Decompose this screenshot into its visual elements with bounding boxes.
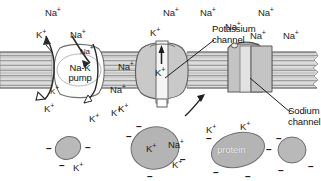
sodium-channel-label: Sodium channel <box>288 106 321 127</box>
extracellular-ion-label: Na+ <box>45 8 61 18</box>
ion-charge: + <box>175 6 179 13</box>
intracellular-ion-label: Na+ <box>168 140 184 150</box>
ion-text: Na <box>118 61 130 72</box>
intracellular-ion-label: K+ <box>111 108 121 118</box>
ion-text: Na <box>110 84 122 95</box>
negative-charge-sign: – <box>266 145 272 155</box>
ion-charge: + <box>50 102 54 109</box>
extracellular-ion-label: Na+ <box>163 8 179 18</box>
negative-charge-sign: – <box>276 134 282 144</box>
negative-charge-sign: – <box>308 162 314 172</box>
ion-charge: + <box>237 20 241 27</box>
k-ion-pump-bottom: K+ <box>50 88 59 96</box>
intracellular-ion-label: K+ <box>73 163 83 173</box>
intracellular-ion-label: K+ <box>44 104 54 114</box>
extracellular-ion-label: Na+ <box>118 62 134 72</box>
ion-text: Na <box>45 7 57 18</box>
k-ion-channel-top: K+ <box>150 28 160 38</box>
k-ion-channel-pore: K+ <box>155 68 165 78</box>
ion-charge: + <box>212 123 216 130</box>
intracellular-ion-label: K+ <box>240 122 250 132</box>
sodium-channel-shape <box>228 42 272 92</box>
ion-charge: + <box>124 102 128 109</box>
protein-blob <box>278 137 306 163</box>
negative-charge-sign: – <box>180 155 186 165</box>
ion-text: Na <box>163 7 175 18</box>
ion-text: Na <box>200 7 212 18</box>
ion-charge: + <box>117 106 121 113</box>
protein-blob-text: protein <box>217 144 245 155</box>
negative-charge-sign: – <box>206 134 212 144</box>
diagram-canvas: Na-K pump Potassium channel Sodium chann… <box>0 0 321 181</box>
sodium-channel-label-line1: Sodium <box>288 106 321 117</box>
sodium-influx-arrow <box>185 94 205 116</box>
ion-charge: + <box>122 83 126 90</box>
negative-charge-sign: – <box>147 172 153 181</box>
ion-text: Na <box>80 47 90 56</box>
ion-text: Na <box>70 29 82 40</box>
negative-charge-sign: – <box>213 168 219 178</box>
membrane-mid-right <box>187 52 228 88</box>
negative-charge-sign: – <box>278 166 284 176</box>
na-k-pump-label: Na-K pump <box>60 63 100 83</box>
na-k-pump-label-line2: pump <box>60 73 100 83</box>
ion-charge: + <box>152 142 156 149</box>
negative-charge-sign: – <box>85 143 91 153</box>
extracellular-ion-label: Na+ <box>225 22 241 32</box>
na-ion-pump-pore: Na+ <box>80 48 94 56</box>
ion-charge: + <box>42 28 46 35</box>
negative-charge-sign: – <box>46 144 52 154</box>
intracellular-ion-label: K+ <box>89 114 99 124</box>
protein-blob <box>52 133 85 164</box>
ion-charge: + <box>95 112 99 119</box>
extracellular-ion-label: Na+ <box>250 31 266 41</box>
ion-charge: + <box>180 138 184 145</box>
ion-charge: + <box>295 29 299 36</box>
negative-charge-sign: – <box>59 161 65 171</box>
ion-charge: + <box>79 161 83 168</box>
ion-charge: + <box>82 28 86 35</box>
membrane-left <box>0 52 52 88</box>
extracellular-ion-label: Na+ <box>258 8 274 18</box>
extracellular-ion-label: K+ <box>36 30 46 40</box>
ion-text: Na <box>250 30 262 41</box>
ion-text: Na <box>283 30 295 41</box>
potassium-channel-label-line2: channel <box>212 35 255 46</box>
ion-charge: + <box>212 6 216 13</box>
extracellular-ion-label: Na+ <box>200 8 216 18</box>
ion-charge: + <box>130 60 134 67</box>
sodium-channel-label-line2: channel <box>288 117 321 128</box>
intracellular-ion-label: K+ <box>146 144 156 154</box>
negative-charge-sign: – <box>245 172 251 181</box>
negative-charge-sign: – <box>126 132 132 142</box>
extracellular-ion-label: Na+ <box>283 31 299 41</box>
extracellular-ion-label: Na+ <box>70 30 86 40</box>
negative-charge-sign: – <box>136 122 142 132</box>
extracellular-ion-label: Na+ <box>110 85 126 95</box>
ion-text: Na <box>168 139 180 150</box>
ion-charge: + <box>270 6 274 13</box>
ion-charge: + <box>262 29 266 36</box>
ion-charge: + <box>57 6 61 13</box>
ion-text: Na <box>225 21 237 32</box>
ion-charge: + <box>246 120 250 127</box>
membrane-right <box>272 52 318 88</box>
ion-text: Na <box>258 7 270 18</box>
